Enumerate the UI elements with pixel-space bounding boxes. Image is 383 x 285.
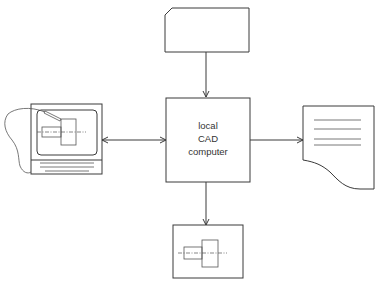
plot-output-sheet-icon	[173, 225, 243, 278]
label-line-2: CAD	[166, 132, 250, 145]
punched-card-icon	[165, 8, 249, 52]
arrow-computer-to-plot	[203, 182, 209, 225]
printout-document-icon	[303, 106, 374, 189]
arrow-card-to-computer	[203, 52, 209, 97]
arrow-computer-to-printout	[250, 137, 303, 143]
cad-computer-label: local CAD computer	[166, 119, 250, 158]
arrow-terminal-computer-bidirectional	[102, 137, 166, 143]
graphics-terminal-icon	[5, 104, 102, 174]
label-line-1: local	[166, 119, 250, 132]
label-line-3: computer	[166, 145, 250, 158]
